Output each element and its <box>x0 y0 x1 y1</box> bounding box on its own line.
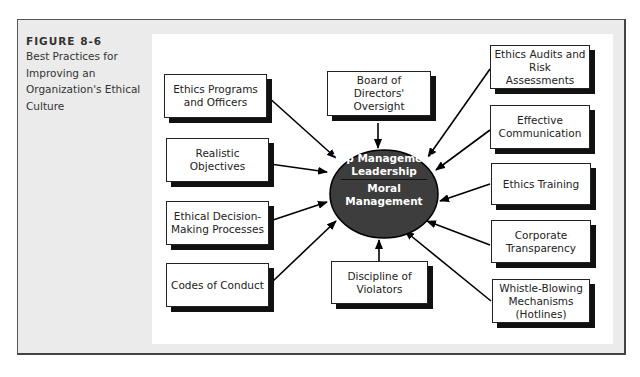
center-bottom-label: Moral Management <box>330 182 438 207</box>
box-ethics-training: Ethics Training <box>491 163 591 205</box>
box-label: Corporate Transparency <box>495 229 587 255</box>
box-codes-of-conduct: Codes of Conduct <box>166 263 269 307</box>
box-label: Ethics Programs and Officers <box>168 83 263 109</box>
box-ethics-audits: Ethics Audits and Risk Assessments <box>490 45 590 89</box>
center-top-label: Top Management Leadership <box>330 152 438 177</box>
arrow-codes-of-conduct <box>272 221 336 282</box>
box-label: Ethics Training <box>503 178 579 191</box>
box-ethical-decision-making: Ethical Decision-Making Processes <box>166 201 269 245</box>
box-label: Realistic Objectives <box>170 147 265 173</box>
arrow-ethics-training <box>440 184 490 201</box>
box-discipline-of-violators: Discipline of Violators <box>331 261 428 304</box>
arrow-ethics-audits <box>428 69 490 157</box>
box-whistle-blowing: Whistle-Blowing Mechanisms (Hotlines) <box>492 279 590 323</box>
arrow-corporate-transparency <box>427 221 490 245</box>
arrow-ethics-programs <box>267 96 336 158</box>
box-label: Effective Communication <box>494 114 586 140</box>
box-label: Whistle-Blowing Mechanisms (Hotlines) <box>496 282 586 321</box>
box-label: Ethics Audits and Risk Assessments <box>494 48 586 87</box>
box-corporate-transparency: Corporate Transparency <box>491 220 591 263</box>
box-label: Board of Directors' Oversight <box>331 74 427 113</box>
center-divider <box>341 179 427 180</box>
box-label: Ethical Decision-Making Processes <box>170 210 265 236</box>
box-board-oversight: Board of Directors' Oversight <box>327 71 431 116</box>
box-realistic-objectives: Realistic Objectives <box>166 138 269 182</box>
arrow-ethical-decision <box>270 202 327 221</box>
center-label: Top Management Leadership Moral Manageme… <box>330 152 438 207</box>
arrow-realistic-objectives <box>270 164 327 172</box>
box-ethics-programs: Ethics Programs and Officers <box>164 74 267 118</box>
box-label: Codes of Conduct <box>171 279 264 292</box>
box-effective-communication: Effective Communication <box>490 105 590 149</box>
box-label: Discipline of Violators <box>335 270 424 296</box>
arrow-effective-communication <box>436 130 490 170</box>
